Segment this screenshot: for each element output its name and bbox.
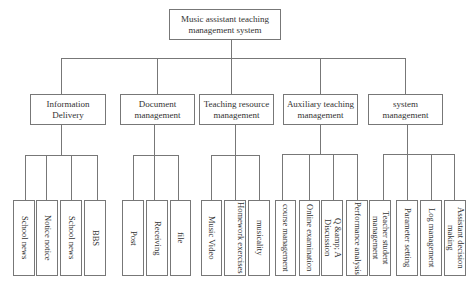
leaf-label: Music Video [207, 216, 217, 259]
leaf-label: course management [281, 204, 291, 272]
leaf-label: Homework exercises [225, 202, 245, 274]
module-auxiliary-teaching-management: Auxiliary teaching management [283, 94, 358, 125]
connector [320, 58, 321, 94]
leaf-log-management: Log management [420, 200, 442, 276]
leaf-label: Performance analysis [352, 202, 362, 275]
connector [97, 155, 98, 200]
connector [333, 154, 334, 200]
leaf-label: Log management [426, 208, 436, 267]
connector [133, 155, 134, 200]
module-system-management: system management [368, 94, 443, 125]
leaf-school-news: School news [13, 200, 35, 276]
connector [320, 125, 321, 155]
leaf-label: Q &amp; A Discussion [323, 201, 342, 275]
leaf-label: School news [66, 216, 76, 259]
connector [157, 58, 158, 94]
leaf-musicality: musicality [248, 200, 270, 276]
leaf-course-management: course management [275, 200, 296, 276]
leaf-label: Online examination [305, 204, 315, 271]
leaf-qa-discussion: Q &amp; A Discussion [321, 200, 343, 276]
module-label: Auxiliary teaching management [284, 99, 357, 121]
connector [25, 155, 98, 156]
module-teaching-resource-management: Teaching resource management [199, 94, 274, 125]
leaf-label: file [176, 232, 186, 243]
connector [61, 58, 62, 94]
leaf-teacher-student-management: Teacher student management [369, 200, 391, 276]
connector [154, 155, 155, 200]
connector [454, 154, 455, 200]
module-label: Teaching resource management [200, 99, 273, 121]
connector [211, 155, 212, 200]
leaf-post: Post [122, 200, 144, 276]
connector [133, 155, 179, 156]
root-node: Music assistant teaching management syst… [169, 9, 281, 40]
connector [383, 154, 384, 200]
connector [259, 155, 260, 200]
leaf-assistant-decision-making: Assistant decision making [444, 200, 466, 276]
connector [282, 154, 283, 200]
connector [71, 155, 72, 200]
leaf-notice-notice: Notice notice [36, 200, 58, 276]
connector [282, 154, 358, 155]
leaf-performance-analysis: Performance analysis [346, 200, 368, 276]
connector [231, 58, 232, 94]
module-label: Information Delivery [31, 99, 105, 121]
leaf-label: BBS [90, 230, 100, 246]
connector [61, 125, 62, 155]
leaf-label: musicality [254, 220, 264, 255]
connector [46, 155, 47, 200]
connector [405, 58, 406, 94]
connector [235, 155, 236, 200]
root-label: Music assistant teaching management syst… [176, 14, 274, 36]
connector [407, 125, 408, 154]
leaf-bbs: BBS [84, 200, 106, 276]
connector [357, 154, 358, 200]
module-document-management: Document management [120, 94, 195, 125]
connector [235, 125, 236, 155]
connector [431, 154, 432, 200]
module-information-delivery: Information Delivery [30, 94, 106, 125]
leaf-label: Receiving [152, 221, 162, 255]
connector [61, 58, 405, 59]
leaf-homework-exercises: Homework exercises [224, 200, 246, 276]
module-label: Document management [121, 99, 194, 121]
leaf-parameter-setting: Parameter setting [396, 200, 418, 276]
leaf-file: file [170, 200, 191, 276]
leaf-label: School news [19, 216, 29, 259]
connector [309, 154, 310, 200]
module-label: system management [369, 99, 442, 121]
leaf-label: Parameter setting [402, 208, 412, 267]
connector [25, 155, 26, 200]
leaf-school-news-2: School news [60, 200, 82, 276]
connector [407, 154, 408, 200]
leaf-label: Notice notice [42, 215, 52, 261]
leaf-online-examination: Online examination [299, 200, 320, 276]
leaf-receiving: Receiving [146, 200, 168, 276]
leaf-label: Teacher student management [371, 201, 390, 275]
leaf-label: Assistant decision making [446, 201, 465, 275]
connector [231, 40, 232, 58]
leaf-label: Post [128, 231, 138, 246]
connector [178, 155, 179, 200]
connector [383, 154, 455, 155]
connector [154, 125, 155, 155]
leaf-music-video: Music Video [201, 200, 222, 276]
